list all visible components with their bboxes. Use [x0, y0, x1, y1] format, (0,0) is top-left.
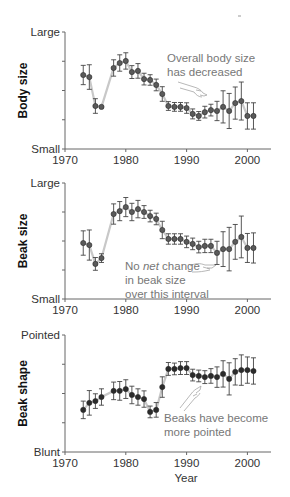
x-tick-label: 2000 — [235, 154, 261, 166]
data-point — [81, 407, 86, 412]
data-point — [93, 261, 98, 266]
data-point — [227, 108, 232, 113]
x-tick-label: 1980 — [113, 304, 139, 316]
data-point — [196, 373, 201, 378]
data-point — [166, 103, 171, 108]
data-point — [227, 376, 232, 381]
data-point — [135, 207, 140, 212]
annotation-text: has decreased — [167, 66, 242, 78]
data-point — [239, 98, 244, 103]
x-tick-label: 1990 — [174, 304, 200, 316]
data-point — [208, 373, 213, 378]
x-tick-label: 2000 — [235, 304, 261, 316]
data-point — [111, 211, 116, 216]
data-point — [214, 375, 219, 380]
data-point — [245, 113, 250, 118]
data-point — [196, 244, 201, 249]
data-point — [202, 243, 207, 248]
data-point — [87, 242, 92, 247]
data-point — [123, 204, 128, 209]
data-point — [93, 103, 98, 108]
data-point — [245, 245, 250, 250]
data-point — [117, 209, 122, 214]
data-point — [135, 394, 140, 399]
pointing-hand-icon — [178, 82, 207, 97]
data-point — [154, 407, 159, 412]
beak-size-panel: LargeSmallBeak size1970198019902000No ne… — [16, 177, 271, 316]
data-point — [160, 384, 165, 389]
data-point — [202, 375, 207, 380]
data-point — [117, 388, 122, 393]
y-axis-title: Beak size — [16, 213, 30, 268]
data-point — [214, 108, 219, 113]
data-point — [220, 104, 225, 109]
annotation-text: over this interval — [125, 288, 209, 300]
data-point — [172, 236, 177, 241]
data-point — [129, 69, 134, 74]
data-point — [123, 58, 128, 63]
data-point — [87, 74, 92, 79]
data-point — [99, 394, 104, 399]
data-point — [135, 68, 140, 73]
data-point — [154, 216, 159, 221]
data-point — [111, 65, 116, 70]
annotation-text: Beaks have become — [164, 412, 268, 424]
data-point — [251, 113, 256, 118]
data-point — [129, 209, 134, 214]
data-point — [233, 100, 238, 105]
data-point — [227, 247, 232, 252]
data-point — [172, 366, 177, 371]
data-point — [141, 209, 146, 214]
data-point — [148, 77, 153, 82]
data-point — [196, 113, 201, 118]
data-point — [184, 105, 189, 110]
data-point — [166, 236, 171, 241]
pointing-hand-icon — [180, 386, 201, 411]
data-point — [208, 107, 213, 112]
data-point — [148, 409, 153, 414]
data-point — [117, 60, 122, 65]
data-point — [129, 392, 134, 397]
data-point — [81, 72, 86, 77]
data-point — [251, 368, 256, 373]
y-top-label: Large — [31, 177, 60, 189]
data-point — [148, 213, 153, 218]
data-point — [178, 236, 183, 241]
annotation-text: in beak size — [125, 274, 186, 286]
data-point — [214, 250, 219, 255]
annotation-text: more pointed — [164, 426, 231, 438]
x-tick-label: 1990 — [174, 457, 200, 469]
data-point — [99, 256, 104, 261]
data-point — [93, 399, 98, 404]
y-top-label: Pointed — [21, 329, 60, 341]
annotation-text: No net change — [125, 260, 200, 272]
data-point — [251, 245, 256, 250]
data-point — [141, 76, 146, 81]
y-axis-title: Body size — [16, 62, 30, 118]
data-point — [190, 111, 195, 116]
x-tick-label: 1970 — [52, 457, 78, 469]
data-point — [160, 227, 165, 232]
three-panel-finch-trait-chart: LargeSmallBody size1970198019902000Overa… — [0, 0, 290, 497]
data-point — [220, 371, 225, 376]
data-point — [220, 247, 225, 252]
data-point — [154, 82, 159, 87]
data-point — [160, 91, 165, 96]
data-point — [233, 239, 238, 244]
x-tick-label: 1990 — [174, 154, 200, 166]
data-point — [172, 104, 177, 109]
x-tick-label: 1970 — [52, 154, 78, 166]
x-tick-label: 1980 — [113, 154, 139, 166]
data-point — [123, 387, 128, 392]
data-point — [190, 372, 195, 377]
data-point — [239, 368, 244, 373]
beak-shape-panel: PointedBluntBeak shape1970198019902000Be… — [16, 329, 271, 469]
data-point — [190, 241, 195, 246]
x-tick-label: 1980 — [113, 457, 139, 469]
data-point — [99, 104, 104, 109]
data-point — [166, 366, 171, 371]
annotation-text: Overall body size — [167, 52, 255, 64]
data-point — [208, 243, 213, 248]
data-point — [184, 239, 189, 244]
x-axis-title: Year — [174, 472, 197, 484]
